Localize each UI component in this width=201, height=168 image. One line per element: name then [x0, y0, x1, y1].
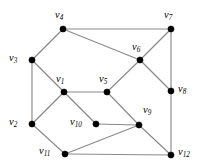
graph-edge-v4-v3 — [32, 29, 63, 60]
graph-edge-v9-v12 — [139, 125, 171, 155]
vertex-label-subscript-v9: 9 — [148, 109, 152, 117]
vertex-label-v12: v12 — [178, 147, 190, 158]
edges-group — [32, 29, 171, 155]
vertex-label-base-v12: v — [178, 146, 183, 157]
vertex-label-v5: v5 — [99, 74, 107, 85]
graph-vertex-v10 — [93, 121, 99, 127]
vertex-label-v6: v6 — [132, 42, 140, 53]
vertex-label-subscript-v10: 10 — [75, 121, 82, 129]
graph-vertex-v3 — [29, 57, 35, 63]
vertex-label-base-v8: v — [178, 83, 183, 94]
vertex-label-base-v10: v — [70, 116, 75, 127]
graph-edge-v9-v11 — [65, 125, 139, 154]
graph-vertex-v11 — [62, 151, 68, 157]
vertex-label-subscript-v7: 7 — [169, 14, 173, 22]
graph-vertex-v5 — [104, 89, 110, 95]
vertex-label-subscript-v1: 1 — [61, 78, 65, 86]
vertex-label-v2: v2 — [9, 117, 17, 128]
graph-vertex-v9 — [136, 122, 142, 128]
graph-vertex-v2 — [29, 121, 35, 127]
vertex-label-v7: v7 — [164, 10, 172, 21]
vertex-label-v3: v3 — [9, 53, 17, 64]
vertex-label-v11: v11 — [39, 146, 50, 157]
vertex-label-subscript-v8: 8 — [183, 88, 187, 96]
graph-vertex-v6 — [137, 57, 143, 63]
vertex-label-v9: v9 — [143, 105, 151, 116]
vertex-label-base-v5: v — [99, 73, 104, 84]
vertex-label-base-v7: v — [164, 9, 169, 20]
vertex-label-subscript-v5: 5 — [104, 78, 108, 86]
vertex-label-base-v2: v — [9, 116, 14, 127]
graph-edge-v11-v12 — [65, 154, 171, 155]
graph-edge-v10-v9 — [96, 124, 139, 125]
graph-vertex-v8 — [168, 88, 174, 94]
vertex-label-subscript-v12: 12 — [183, 151, 190, 159]
vertex-label-subscript-v4: 4 — [60, 14, 64, 22]
vertex-label-subscript-v2: 2 — [14, 121, 18, 129]
graph-figure: v1v2v3v4v5v6v7v8v9v10v11v12 — [0, 0, 201, 168]
graph-edge-v6-v5 — [107, 60, 140, 92]
vertex-label-v4: v4 — [55, 10, 63, 21]
graph-edge-v5-v9 — [107, 92, 139, 125]
graph-vertex-v12 — [168, 152, 174, 158]
vertex-label-base-v11: v — [39, 145, 44, 156]
vertex-label-base-v4: v — [55, 9, 60, 20]
vertex-label-subscript-v6: 6 — [137, 46, 141, 54]
graph-edge-v7-v6 — [140, 29, 171, 60]
vertex-label-base-v9: v — [143, 104, 148, 115]
vertex-label-base-v6: v — [132, 41, 137, 52]
graph-vertex-v7 — [168, 26, 174, 32]
vertex-label-v1: v1 — [56, 74, 64, 85]
graph-vertex-v1 — [61, 89, 67, 95]
vertex-label-subscript-v11: 11 — [44, 150, 51, 158]
vertex-label-subscript-v3: 3 — [14, 57, 18, 65]
vertex-label-base-v3: v — [9, 52, 14, 63]
vertex-label-v8: v8 — [178, 84, 186, 95]
graph-vertex-v4 — [60, 26, 66, 32]
vertex-label-base-v1: v — [56, 73, 61, 84]
graph-edge-v4-v6 — [63, 29, 140, 60]
vertex-label-v10: v10 — [70, 117, 82, 128]
graph-edge-v1-v2 — [32, 92, 64, 124]
graph-edge-v6-v8 — [140, 60, 171, 91]
